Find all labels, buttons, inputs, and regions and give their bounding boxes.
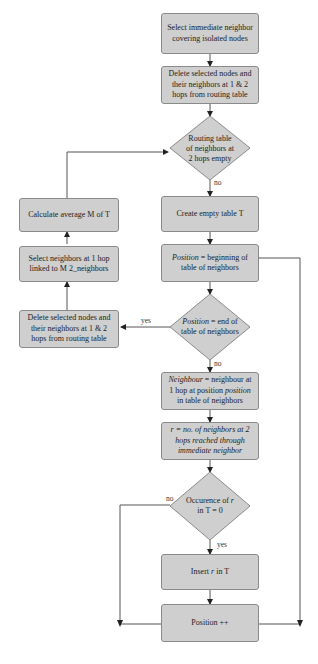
box-create-table: Create empty table T (161, 196, 259, 232)
diamond-routing-text: Routing table of neighbors at 2 hops emp… (185, 124, 235, 174)
italic-text: Position (172, 253, 199, 262)
label-routing-no: no (214, 178, 222, 187)
diamond-label: Occurence of r in T = 0 (185, 496, 235, 516)
box-text: Delete selected nodes and their neighbor… (24, 313, 114, 345)
box-text: r = no. of neighbors at 2 hops reached t… (166, 425, 254, 457)
box-delete-selected-top: Delete selected nodes and their neighbor… (161, 66, 259, 104)
box-text: Select neighbors at 1 hop linked to M 2_… (24, 254, 114, 275)
text: in T (214, 567, 229, 576)
box-delete-selected-left: Delete selected nodes and their neighbor… (19, 310, 119, 348)
box-text: Delete selected nodes and their neighbor… (166, 69, 254, 101)
box-r-definition: r = no. of neighbors at 2 hops reached t… (161, 422, 259, 460)
label-position-end-yes: yes (141, 316, 151, 325)
italic-text: position (225, 386, 251, 395)
diamond-position-end-text: Position = end of table of neighbors (180, 306, 240, 348)
text: Occurence of (186, 496, 231, 505)
box-text: Create empty table T (176, 209, 243, 220)
diamond-label: Routing table of neighbors at 2 hops emp… (185, 134, 235, 164)
box-position-increment: Position ++ (161, 604, 259, 642)
box-text: Position ++ (191, 618, 228, 629)
box-position-begin: Position = beginning of table of neighbo… (161, 244, 259, 282)
box-text: Insert r in T (191, 567, 229, 578)
box-text: Calculate average M of T (28, 210, 110, 221)
box-text: Neighbour = neighbour at 1 hop at positi… (166, 375, 254, 407)
italic-text: Position (182, 317, 209, 326)
text: in T = 0 (197, 506, 222, 515)
text: in table of neighbors (177, 396, 243, 405)
box-text: Position = beginning of table of neighbo… (166, 253, 254, 274)
diamond-label: Position = end of table of neighbors (180, 317, 240, 337)
box-select-neighbors-1hop: Select neighbors at 1 hop linked to M 2_… (19, 246, 119, 282)
box-neighbour: Neighbour = neighbour at 1 hop at positi… (161, 372, 259, 410)
label-occurence-no: no (166, 494, 174, 503)
box-insert-r: Insert r in T (161, 554, 259, 590)
italic-text: r (231, 496, 234, 505)
diamond-occurence-text: Occurence of r in T = 0 (185, 484, 235, 528)
box-calculate-average: Calculate average M of T (19, 198, 119, 232)
italic-text: Neighbour (169, 375, 203, 384)
arrow-calculate-to-routing (67, 152, 168, 198)
text: Insert (191, 567, 211, 576)
box-select-immediate: Select immediate neighbor covering isola… (161, 13, 259, 54)
label-occurence-yes: yes (217, 540, 227, 549)
label-position-end-no: no (214, 359, 222, 368)
box-text: Select immediate neighbor covering isola… (166, 23, 254, 44)
